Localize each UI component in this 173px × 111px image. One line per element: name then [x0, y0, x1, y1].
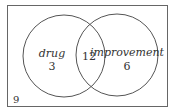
venn-diagram: drug 3 12 improvement 6 9: [0, 0, 173, 111]
improvement-only-count: 6: [124, 60, 131, 73]
outside-count: 9: [13, 94, 19, 105]
drug-only-count: 3: [49, 60, 56, 73]
drug-label: drug: [39, 47, 65, 60]
improvement-label: improvement: [90, 46, 165, 59]
